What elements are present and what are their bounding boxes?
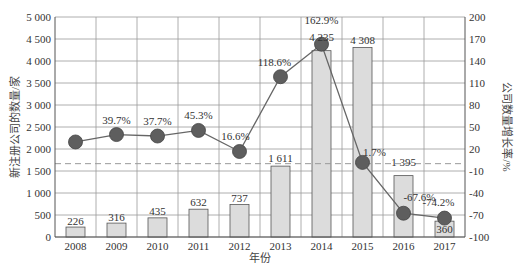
left-y-tick-label: 4 000 — [26, 55, 51, 67]
bar-value-label: 4 308 — [350, 34, 375, 46]
line-marker — [151, 129, 165, 143]
left-y-tick-label: 2 500 — [26, 121, 51, 133]
x-tick-label: 2015 — [352, 240, 375, 252]
x-tick-label: 2014 — [311, 240, 334, 252]
line-marker — [274, 70, 288, 84]
x-tick-label: 2012 — [229, 240, 251, 252]
left-y-tick-label: 1 500 — [26, 165, 51, 177]
x-tick-label: 2011 — [188, 240, 210, 252]
bar-value-label: 435 — [149, 205, 166, 217]
bar-value-label: 226 — [67, 215, 84, 227]
right-y-tick-label: 140 — [469, 55, 486, 67]
bar — [66, 227, 85, 237]
line-marker — [192, 123, 206, 137]
line-marker — [397, 206, 411, 220]
right-y-tick-label: -10 — [469, 165, 484, 177]
right-y-tick-label: 20 — [469, 143, 481, 155]
left-y-axis-title: 新注册公司的数量/家 — [8, 76, 21, 178]
bar — [230, 205, 249, 237]
bar — [271, 166, 290, 237]
left-y-tick-label: 1 000 — [26, 187, 51, 199]
x-tick-label: 2010 — [147, 240, 170, 252]
line-marker — [69, 135, 83, 149]
line-marker — [233, 144, 247, 158]
right-y-tick-label: 200 — [469, 11, 486, 23]
bar-value-label: 737 — [231, 192, 248, 204]
bar — [312, 51, 331, 237]
left-y-tick-label: 3 500 — [26, 77, 51, 89]
growth-rate-label: -74.2% — [422, 196, 454, 208]
right-y-tick-label: -70 — [469, 209, 484, 221]
bar — [107, 223, 126, 237]
x-tick-label: 2017 — [434, 240, 457, 252]
right-y-tick-label: -40 — [469, 187, 484, 199]
left-y-tick-label: 4 500 — [26, 33, 51, 45]
x-tick-label: 2016 — [393, 240, 416, 252]
right-y-tick-label: 110 — [469, 77, 486, 89]
right-y-tick-label: 80 — [469, 99, 481, 111]
line-marker — [110, 128, 124, 142]
bar-value-label: 4 235 — [309, 31, 334, 43]
bar — [148, 218, 167, 237]
x-tick-label: 2009 — [106, 240, 129, 252]
growth-rate-label: 162.9% — [305, 14, 339, 26]
left-y-tick-label: 0 — [46, 231, 52, 243]
left-y-tick-label: 2 000 — [26, 143, 51, 155]
x-axis-title: 年份 — [249, 251, 271, 264]
growth-rate-label: 118.6% — [258, 56, 292, 68]
bar-value-label: 316 — [108, 211, 125, 223]
bar-value-label: 360 — [436, 223, 453, 235]
bar-value-label: 632 — [190, 196, 207, 208]
growth-rate-label: 39.7% — [102, 114, 130, 126]
right-y-tick-label: 50 — [469, 121, 481, 133]
left-y-tick-label: 3 000 — [26, 99, 51, 111]
bar-value-label: 1 611 — [268, 152, 292, 164]
growth-rate-label: 1.7% — [363, 146, 386, 158]
bar — [189, 209, 208, 237]
right-y-tick-label: 170 — [469, 33, 486, 45]
bar-value-label: 1 395 — [391, 156, 416, 168]
x-tick-label: 2008 — [65, 240, 88, 252]
x-tick-label: 2013 — [270, 240, 293, 252]
right-y-axis-title: 公司数量增长率/% — [501, 82, 514, 171]
growth-rate-label: 45.3% — [184, 109, 212, 121]
growth-rate-label: 16.6% — [221, 130, 249, 142]
right-y-tick-label: -100 — [469, 231, 490, 243]
left-y-tick-label: 5 000 — [26, 11, 51, 23]
left-y-tick-label: 500 — [35, 209, 52, 221]
combo-chart: 0-100500-701 000-401 500-102 000202 5005… — [0, 0, 518, 274]
growth-rate-label: 37.7% — [143, 115, 171, 127]
